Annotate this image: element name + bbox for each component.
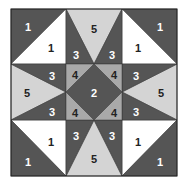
- label-center-diamond: 2: [91, 87, 97, 99]
- label-bottom-right-dark: 3: [109, 130, 115, 142]
- label-center-tl: 4: [72, 69, 79, 81]
- label-tr-dark: 1: [157, 21, 163, 33]
- quilt-block-diagram: 1 1 1 1 1 1 1 1 5 3 3 5 3 3 5 3 3 5 3 3 …: [0, 0, 185, 189]
- label-bl-dark: 1: [25, 156, 31, 168]
- label-bl-white: 1: [48, 136, 54, 148]
- label-left-bottom-dark: 3: [49, 106, 55, 118]
- label-bottom-light: 5: [91, 153, 97, 165]
- label-center-bl: 4: [72, 107, 79, 119]
- label-right-top-dark: 3: [133, 70, 139, 82]
- label-tl-white: 1: [48, 42, 54, 54]
- label-top-right-dark: 3: [109, 49, 115, 61]
- label-top-left-dark: 3: [73, 49, 79, 61]
- label-center-tr: 4: [111, 69, 118, 81]
- label-left-light: 5: [24, 87, 30, 99]
- label-tr-white: 1: [135, 42, 141, 54]
- label-tl-dark: 1: [25, 21, 31, 33]
- label-top-light: 5: [91, 23, 97, 35]
- label-center-br: 4: [111, 107, 118, 119]
- label-right-bottom-dark: 3: [133, 106, 139, 118]
- label-br-dark: 1: [157, 156, 163, 168]
- label-bottom-left-dark: 3: [73, 130, 79, 142]
- label-br-white: 1: [135, 136, 141, 148]
- label-right-light: 5: [158, 87, 164, 99]
- label-left-top-dark: 3: [49, 70, 55, 82]
